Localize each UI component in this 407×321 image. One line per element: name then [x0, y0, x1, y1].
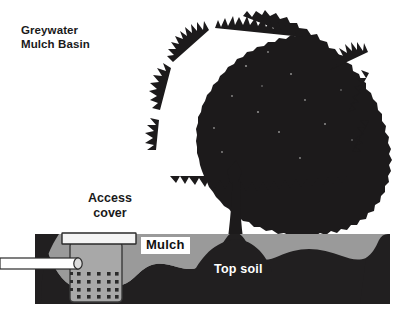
access-cover-label-line-1: Access [62, 191, 158, 206]
title-line-2: Mulch Basin [21, 38, 90, 52]
pipe-outlet-end [74, 258, 82, 269]
access-cover-label: Access cover [62, 191, 158, 220]
access-cover-plate [62, 233, 136, 244]
greywater-mulch-basin-diagram: Greywater Mulch Basin Access cover Mulch… [0, 0, 407, 321]
greywater-inlet-pipe [0, 258, 82, 269]
diagram-title: Greywater Mulch Basin [21, 24, 90, 51]
tree-canopy-icon [145, 10, 392, 237]
title-line-1: Greywater [21, 24, 90, 38]
mulch-label: Mulch [141, 237, 190, 254]
access-cover-label-line-2: cover [62, 206, 158, 221]
mulch-basin [70, 240, 122, 302]
top-soil-label: Top soil [214, 262, 263, 276]
